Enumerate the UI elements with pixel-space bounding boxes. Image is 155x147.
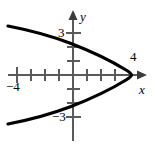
x-tick-label-neg4: −4	[6, 80, 20, 93]
x-axis-label: x	[139, 83, 145, 96]
y-axis-arrowhead	[69, 10, 78, 20]
parabola-graph-figure: y x 3 −3 4 −4	[0, 0, 155, 147]
y-tick-label-3: 3	[58, 26, 65, 39]
y-tick-label-neg3: −3	[52, 110, 66, 123]
vertex-label-4: 4	[130, 50, 137, 63]
y-axis-label: y	[80, 10, 86, 23]
x-axis-arrowhead	[137, 71, 147, 80]
coordinate-plane-svg	[0, 0, 155, 147]
